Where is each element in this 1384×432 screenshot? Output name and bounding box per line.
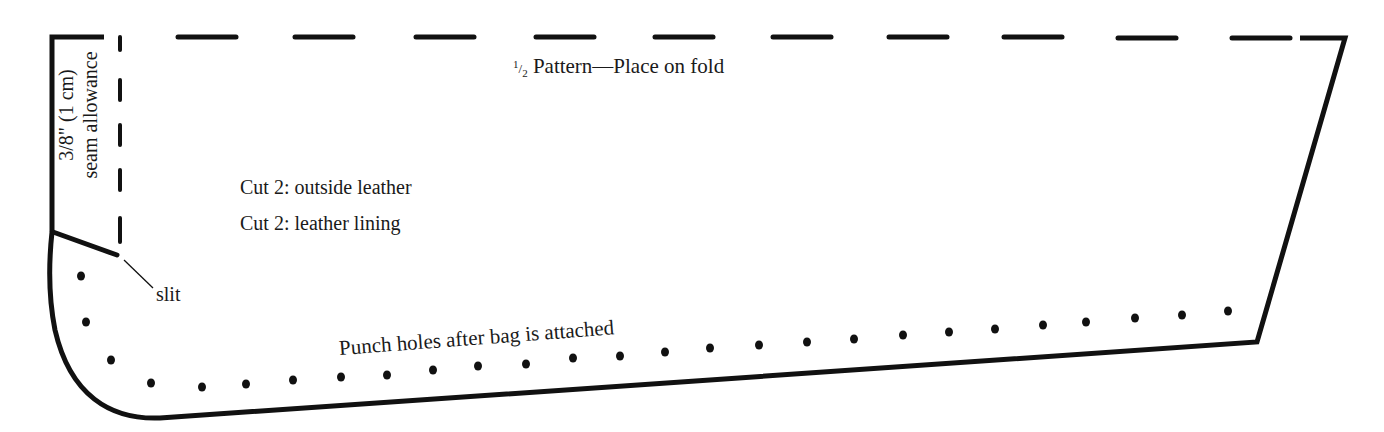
punch-holes — [77, 272, 1232, 392]
slit-leader-line — [124, 260, 153, 288]
title-text: Pattern—Place on fold — [533, 54, 724, 78]
fold-line-dashed — [178, 37, 1290, 38]
slit-label: slit — [156, 283, 180, 306]
seam-allowance-text: seam allowance — [78, 30, 102, 200]
seam-allowance-label: 3/8" (1 cm) seam allowance — [54, 30, 102, 200]
cut-instruction-outside: Cut 2: outside leather — [240, 176, 412, 199]
pattern-title: 1/2 Pattern—Place on fold — [513, 54, 724, 79]
cut-instruction-lining: Cut 2: leather lining — [240, 212, 401, 235]
seam-allowance-measure: 3/8" (1 cm) — [54, 30, 78, 200]
slit-cut-line — [53, 232, 117, 255]
title-fraction: 1/2 — [513, 61, 528, 76]
